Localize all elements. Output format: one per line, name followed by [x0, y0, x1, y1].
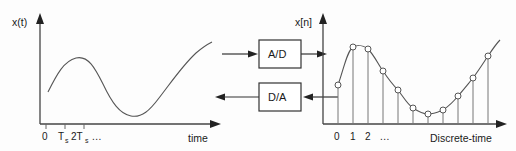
right-plot-x-axis-arrowhead: [496, 120, 507, 128]
sample-marker-6: [425, 111, 431, 117]
right-plot-tick-label-1: 1: [350, 131, 356, 142]
sample-markers-group: [335, 44, 491, 117]
left-plot-tick-label-2-base: 2T: [71, 131, 83, 142]
left-plot-tick-label-1-subscript: s: [65, 137, 69, 144]
left-plot-tick-label-2: 2T s: [71, 131, 89, 144]
sample-marker-2: [365, 46, 371, 52]
figure-canvas: x(t) 0 T s 2T s ... time A/D: [0, 0, 516, 151]
right-plot-tick-label-ellipsis: ...: [380, 131, 390, 142]
sample-marker-7: [440, 107, 446, 113]
sample-marker-0: [335, 82, 341, 88]
left-plot-tick-label-0: 0: [42, 131, 48, 142]
da-input-arrowhead: [303, 94, 313, 101]
left-plot-x-axis-label: time: [188, 132, 208, 144]
ad-block-label: A/D: [268, 48, 286, 60]
ad-input-arrowhead: [248, 51, 258, 58]
sample-marker-5: [410, 105, 416, 111]
da-output-arrowhead: [215, 94, 225, 101]
sample-marker-3: [380, 68, 386, 74]
sample-marker-1: [350, 44, 356, 50]
left-plot-y-axis-label: x(t): [12, 16, 27, 28]
sample-marker-9: [470, 75, 476, 81]
converter-blocks-group: A/D D/A: [215, 40, 338, 111]
sample-marker-8: [455, 93, 461, 99]
stem-lines-group: [338, 47, 488, 124]
sample-marker-4: [395, 87, 401, 93]
sample-marker-10: [485, 53, 491, 59]
diagram-svg: x(t) 0 T s 2T s ... time A/D: [0, 0, 516, 151]
right-plot-tick-label-2: 2: [365, 131, 371, 142]
left-plot-y-axis-arrowhead: [36, 13, 44, 24]
ad-output-arrowhead: [317, 51, 327, 58]
right-plot-tick-label-0: 0: [334, 131, 340, 142]
right-plot-x-axis-label: Discrete-time: [430, 132, 492, 144]
left-plot-group: x(t) 0 T s 2T s ... time: [12, 13, 221, 144]
left-plot-x-axis-arrowhead: [210, 120, 221, 128]
left-plot-tick-label-ellipsis: ...: [92, 131, 102, 142]
left-plot-tick-label-2-subscript: s: [85, 137, 89, 144]
right-plot-y-axis-label: x[n]: [295, 16, 312, 28]
right-plot-y-axis-arrowhead: [319, 13, 327, 24]
left-plot-tick-label-1: T s: [58, 131, 69, 144]
da-block-label: D/A: [268, 91, 287, 103]
left-plot-tick-label-1-base: T: [58, 131, 64, 142]
continuous-waveform: [48, 42, 212, 116]
right-plot-group: x[n] 0 1 2 ... Discrete-time: [295, 13, 507, 144]
